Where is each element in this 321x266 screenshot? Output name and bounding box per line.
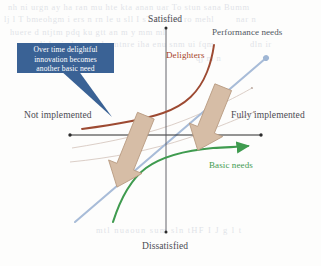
faint-curve-lower [70, 112, 254, 162]
axis-label-satisfied: Satisfied [148, 14, 182, 24]
axis-label-not-implemented: Not implemented [24, 110, 92, 120]
callout-box: Over time delightful innovation becomes … [17, 43, 114, 73]
performance-needs-line [75, 58, 266, 222]
curve-label-performance-needs: Performance needs [212, 27, 282, 37]
curve-label-delighters: Delighters [166, 50, 205, 60]
callout-line-1: Over time delightful [17, 45, 114, 55]
axis-label-dissatisfied: Dissatisfied [142, 241, 188, 251]
axis-label-fully-implemented: Fully implemented [231, 110, 305, 120]
kano-model-figure: nh ni urgn ay ha ran mu hte kta anan uar… [0, 0, 321, 266]
curve-label-basic-needs: Basic needs [209, 160, 253, 170]
callout-line-3: another basic need [17, 64, 114, 74]
kano-chart-canvas [0, 0, 321, 266]
callout-line-2: innovation becomes [17, 55, 114, 65]
